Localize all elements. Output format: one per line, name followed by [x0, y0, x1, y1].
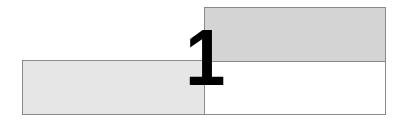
- step-number: 1: [185, 18, 225, 98]
- right-bottom-panel: [204, 61, 386, 115]
- right-top-panel: [204, 7, 386, 62]
- left-panel: [22, 60, 205, 115]
